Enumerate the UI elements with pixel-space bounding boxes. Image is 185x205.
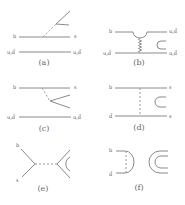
incoming-line-e-1 [21, 149, 35, 164]
label-a-top-left: b [13, 33, 16, 39]
quark-pair-e [66, 157, 70, 171]
label-f-bottom-left: d̄ [109, 171, 113, 177]
panel-b: b u,d̄ u,d̄ u,d̄ (b) [103, 28, 178, 67]
panel-c: b s u,d̄ u,d̄ (c) [7, 84, 82, 133]
label-b-bottom-right: u,d̄ [169, 50, 178, 56]
outgoing-line-e-1 [57, 150, 70, 164]
gluon-line-b [139, 38, 142, 53]
outgoing-line-a-2 [56, 24, 69, 25]
quark-pair-f-outer [149, 151, 168, 173]
annihilation-arc-f [116, 151, 134, 173]
label-b-bottom-left: u,d̄ [103, 50, 112, 56]
label-e-top-left: b [16, 142, 19, 148]
quark-pair-b [157, 41, 166, 49]
panel-d: b s d̄ s (d) [109, 84, 172, 132]
outgoing-line-c-1 [50, 95, 70, 101]
loop-arc-b [133, 32, 147, 38]
outgoing-line-e-2 [57, 164, 70, 178]
outgoing-line-a-1 [56, 11, 70, 24]
label-f-top-left: b [109, 147, 112, 153]
panel-e: b s (e) [16, 142, 70, 193]
label-d-bottom-left: d̄ [109, 113, 113, 119]
boson-line-a [43, 24, 56, 37]
label-b-top-right: u,d̄ [169, 28, 178, 34]
outgoing-line-c-2 [50, 101, 70, 108]
label-c-top-left: b [13, 84, 16, 90]
incoming-line-e-2 [22, 164, 35, 177]
caption-b: (b) [133, 58, 144, 67]
label-d-bottom-right: s [169, 113, 172, 119]
feynman-diagrams-figure: b s u,d̄ u,d̄ (a) b u,d̄ u,d̄ u,d̄ (b) b… [0, 0, 185, 205]
panel-f: b d̄ (f) [109, 147, 168, 192]
label-c-bottom-right: u,d̄ [73, 114, 82, 120]
label-a-bottom-left: u,d̄ [7, 49, 16, 55]
label-c-top-right: s [74, 84, 77, 90]
boson-line-c [42, 88, 50, 101]
caption-a: (a) [38, 58, 49, 67]
label-d-top-left: b [109, 84, 112, 90]
caption-e: (e) [38, 184, 49, 193]
label-d-top-right: s [169, 84, 172, 90]
caption-c: (c) [39, 124, 50, 133]
label-a-bottom-right: u,d̄ [73, 49, 82, 55]
panel-a: b s u,d̄ u,d̄ (a) [7, 11, 82, 67]
label-c-bottom-left: u,d̄ [7, 114, 16, 120]
label-a-top-right: s [74, 33, 77, 39]
quark-pair-d [155, 97, 166, 107]
caption-d: (d) [133, 123, 144, 132]
label-e-bottom-left: s [16, 177, 19, 183]
label-b-top-left: b [109, 28, 112, 34]
caption-f: (f) [134, 183, 143, 192]
quark-pair-f-inner [155, 156, 168, 168]
